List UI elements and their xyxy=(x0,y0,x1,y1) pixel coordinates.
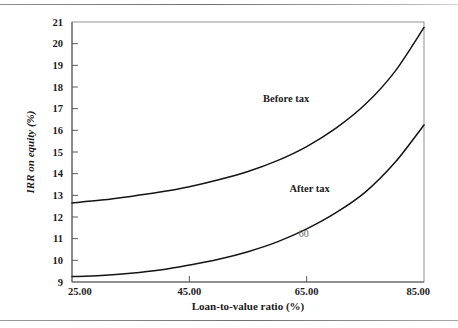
y-tick-label-11: 11 xyxy=(53,233,63,244)
x-tick-label-65.00: 65.00 xyxy=(295,286,319,297)
y-tick-label-20: 20 xyxy=(53,38,64,49)
x-axis-ticks xyxy=(189,276,306,282)
y-tick-label-16: 16 xyxy=(53,125,64,136)
y-tick-label-10: 10 xyxy=(53,255,64,266)
curve-after-tax xyxy=(72,125,424,277)
series-inline-labels: Before taxAfter tax xyxy=(263,93,330,194)
y-tick-label-17: 17 xyxy=(53,103,64,114)
chart-figure: 9101112131415161718192021 25.0045.0065.0… xyxy=(0,0,458,328)
x-tick-label-85.00: 85.00 xyxy=(406,286,430,297)
y-tick-label-9: 9 xyxy=(58,277,63,288)
x-axis-tick-labels: 25.0045.0065.0085.00 xyxy=(68,286,430,297)
y-tick-label-18: 18 xyxy=(53,82,64,93)
plot-area-frame xyxy=(72,22,424,282)
x-tick-label-45.00: 45.00 xyxy=(178,286,202,297)
curve-before-tax xyxy=(72,27,424,203)
y-tick-label-14: 14 xyxy=(53,168,64,179)
x-axis-title: Loan-to-value ratio (%) xyxy=(192,300,305,313)
irr-vs-ltv-line-chart: 9101112131415161718192021 25.0045.0065.0… xyxy=(0,0,458,328)
x-tick-label-25.00: 25.00 xyxy=(68,286,92,297)
y-tick-label-15: 15 xyxy=(53,147,64,158)
y-axis-tick-labels: 9101112131415161718192021 xyxy=(53,17,64,288)
y-axis-ticks xyxy=(72,44,78,261)
annotation-60: 60 xyxy=(299,228,309,239)
y-tick-label-13: 13 xyxy=(53,190,64,201)
series-label-after-tax: After tax xyxy=(289,183,330,194)
data-curves xyxy=(72,27,424,276)
chart-annotations: 60 xyxy=(299,228,309,239)
y-tick-label-21: 21 xyxy=(53,17,64,28)
series-label-before-tax: Before tax xyxy=(263,93,310,104)
y-tick-label-19: 19 xyxy=(53,60,64,71)
y-tick-label-12: 12 xyxy=(53,212,64,223)
y-axis-title: IRR on equity (%) xyxy=(24,111,37,195)
